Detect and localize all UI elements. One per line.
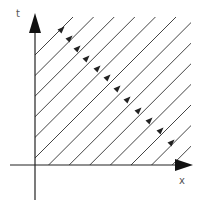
direction-arrow-icon bbox=[58, 27, 65, 34]
direction-arrow-icon bbox=[94, 66, 101, 73]
characteristics-diagram bbox=[0, 0, 203, 210]
direction-arrow-icon bbox=[124, 97, 131, 104]
characteristic-line bbox=[137, 0, 203, 200]
characteristic-line bbox=[0, 0, 152, 200]
characteristic-line bbox=[0, 0, 131, 200]
characteristic-line bbox=[0, 0, 90, 200]
characteristic-line bbox=[14, 0, 203, 200]
direction-arrow-icon bbox=[135, 108, 142, 115]
characteristic-line bbox=[117, 0, 203, 200]
characteristic-line bbox=[0, 0, 172, 200]
t-axis-arrowhead-icon bbox=[29, 13, 41, 33]
x-axis-label: x bbox=[179, 175, 185, 186]
direction-arrow-icon bbox=[83, 56, 90, 63]
characteristic-line bbox=[0, 0, 193, 200]
characteristic-line bbox=[96, 0, 203, 200]
x-axis-arrowhead-icon bbox=[175, 159, 193, 171]
direction-arrow-icon bbox=[104, 75, 111, 82]
characteristic-line bbox=[0, 0, 111, 200]
direction-arrow-icon bbox=[114, 86, 121, 93]
t-axis-label: t bbox=[16, 8, 20, 19]
direction-arrows bbox=[58, 27, 175, 147]
